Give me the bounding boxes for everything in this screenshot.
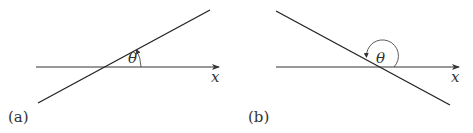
angle-label: θ: [376, 49, 385, 67]
angle-of-inclination-diagram: θ x (a) θ x (b): [0, 0, 473, 133]
panel-label: (a): [8, 108, 29, 126]
angle-label: θ: [128, 49, 137, 67]
x-axis-label: x: [211, 68, 220, 86]
inclined-line: [276, 11, 450, 105]
panel-a: θ x (a): [8, 10, 220, 126]
panel-label: (b): [248, 108, 269, 126]
panel-b: θ x (b): [248, 11, 460, 126]
angle-arc: [137, 50, 142, 67]
inclined-line: [38, 10, 210, 103]
x-axis-label: x: [451, 68, 460, 86]
